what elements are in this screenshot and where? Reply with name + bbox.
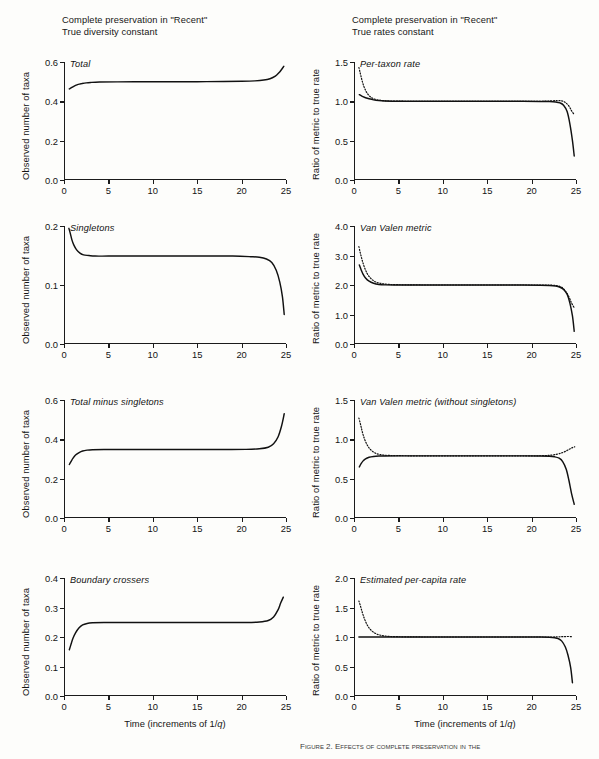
x-tick bbox=[64, 180, 65, 184]
panel-per-taxon-rate: 0.00.51.01.50510152025Per-taxon rateRati… bbox=[354, 62, 576, 180]
y-tick-label: 0.1 bbox=[45, 280, 58, 291]
x-tick bbox=[532, 180, 533, 184]
panel-estimated-per-capita-rate: 0.00.51.01.52.00510152025Estimated per-c… bbox=[354, 578, 576, 696]
curve-layer-estimated-per-capita-rate bbox=[354, 578, 576, 696]
x-tick-label: 0 bbox=[351, 185, 356, 196]
y-tick-label: 0.4 bbox=[45, 573, 58, 584]
y-tick-label: 0.0 bbox=[45, 513, 58, 524]
y-tick-label: 4.0 bbox=[335, 221, 348, 232]
x-tick-label: 10 bbox=[438, 523, 448, 534]
panel-total-minus-singletons: 0.00.20.40.60510152025Total minus single… bbox=[64, 400, 286, 518]
x-tick-label: 0 bbox=[351, 349, 356, 360]
series-solid bbox=[69, 597, 283, 650]
x-tick-label: 20 bbox=[526, 523, 536, 534]
series-dotted bbox=[359, 68, 574, 115]
x-tick bbox=[398, 344, 399, 348]
x-tick-label: 20 bbox=[526, 185, 536, 196]
x-tick-label: 25 bbox=[571, 701, 581, 712]
x-tick bbox=[64, 696, 65, 700]
y-tick-label: 0.5 bbox=[335, 661, 348, 672]
x-tick-label: 0 bbox=[61, 523, 66, 534]
panel-van-valen-metric: 0.01.02.03.04.00510152025Van Valen metri… bbox=[354, 226, 576, 344]
y-tick-label: 1.5 bbox=[335, 395, 348, 406]
curve-layer-per-taxon-rate bbox=[354, 62, 576, 180]
y-tick-label: 0.4 bbox=[45, 96, 58, 107]
x-tick bbox=[532, 344, 533, 348]
curve-layer-boundary-crossers bbox=[64, 578, 286, 696]
y-tick-label: 2.0 bbox=[335, 573, 348, 584]
plot-area-estimated-per-capita-rate: 0.00.51.01.52.00510152025Estimated per-c… bbox=[354, 578, 576, 696]
x-tick-label: 20 bbox=[236, 701, 246, 712]
series-solid bbox=[69, 414, 284, 465]
x-tick-label: 0 bbox=[351, 701, 356, 712]
curve-layer-van-valen-metric bbox=[354, 226, 576, 344]
x-tick bbox=[64, 344, 65, 348]
x-tick-label: 25 bbox=[281, 185, 291, 196]
x-tick bbox=[242, 344, 243, 348]
x-tick-label: 20 bbox=[236, 523, 246, 534]
y-axis-label: Ratio of metric to true rate bbox=[310, 407, 321, 518]
plot-area-total-minus-singletons: 0.00.20.40.60510152025Total minus single… bbox=[64, 400, 286, 518]
x-tick-label: 15 bbox=[482, 523, 492, 534]
y-axis-label: Observed number of taxa bbox=[20, 410, 31, 518]
plot-area-van-valen-metric: 0.01.02.03.04.00510152025Van Valen metri… bbox=[354, 226, 576, 344]
series-solid bbox=[359, 95, 574, 156]
x-tick bbox=[197, 518, 198, 522]
y-tick-label: 0.0 bbox=[335, 513, 348, 524]
x-tick-label: 20 bbox=[526, 701, 536, 712]
curve-layer-total-minus-singletons bbox=[64, 400, 286, 518]
plot-area-boundary-crossers: 0.00.10.20.30.40510152025Boundary crosse… bbox=[64, 578, 286, 696]
y-tick-label: 0.2 bbox=[45, 632, 58, 643]
y-axis-label: Ratio of metric to true rate bbox=[310, 69, 321, 180]
x-tick-label: 5 bbox=[396, 349, 401, 360]
x-tick bbox=[153, 180, 154, 184]
curve-layer-van-valen-without-singletons bbox=[354, 400, 576, 518]
x-tick bbox=[443, 180, 444, 184]
x-axis-label-suffix: ) bbox=[513, 718, 516, 729]
x-axis-label-prefix: Time (increments of 1/ bbox=[414, 718, 507, 729]
x-tick bbox=[108, 518, 109, 522]
y-tick-label: 0.5 bbox=[335, 135, 348, 146]
x-tick-label: 25 bbox=[281, 701, 291, 712]
y-tick-label: 0.0 bbox=[335, 339, 348, 350]
x-tick bbox=[153, 696, 154, 700]
x-axis-label: Time (increments of 1/q) bbox=[124, 718, 225, 729]
y-tick-label: 0.6 bbox=[45, 395, 58, 406]
x-tick bbox=[532, 696, 533, 700]
x-tick bbox=[532, 518, 533, 522]
figure-caption: Figure 2. Effects of complete preservati… bbox=[300, 742, 599, 751]
x-tick-label: 20 bbox=[526, 349, 536, 360]
x-tick bbox=[153, 344, 154, 348]
y-axis-label: Observed number of taxa bbox=[20, 72, 31, 180]
panel-title-singletons: Singletons bbox=[70, 223, 114, 233]
y-tick-label: 0.0 bbox=[45, 175, 58, 186]
x-tick bbox=[576, 696, 577, 700]
panel-boundary-crossers: 0.00.10.20.30.40510152025Boundary crosse… bbox=[64, 578, 286, 696]
x-tick-label: 25 bbox=[281, 523, 291, 534]
panel-title-boundary-crossers: Boundary crossers bbox=[70, 575, 149, 585]
x-tick-label: 10 bbox=[148, 701, 158, 712]
y-tick-label: 1.5 bbox=[335, 57, 348, 68]
x-tick-label: 10 bbox=[148, 185, 158, 196]
x-tick-label: 5 bbox=[396, 185, 401, 196]
x-tick bbox=[443, 696, 444, 700]
x-tick bbox=[197, 344, 198, 348]
x-tick-label: 0 bbox=[61, 349, 66, 360]
x-tick-label: 5 bbox=[106, 349, 111, 360]
panel-title-van-valen-without-singletons: Van Valen metric (without singletons) bbox=[360, 397, 517, 407]
x-tick-label: 15 bbox=[192, 349, 202, 360]
y-tick-label: 0.6 bbox=[45, 57, 58, 68]
y-tick-label: 0.4 bbox=[45, 434, 58, 445]
y-tick-label: 1.5 bbox=[335, 602, 348, 613]
x-tick bbox=[398, 518, 399, 522]
x-tick-label: 10 bbox=[438, 349, 448, 360]
series-solid bbox=[359, 265, 574, 331]
series-solid bbox=[359, 637, 573, 683]
x-tick bbox=[108, 344, 109, 348]
x-tick bbox=[443, 344, 444, 348]
panel-title-van-valen-metric: Van Valen metric bbox=[360, 223, 432, 233]
y-tick-label: 0.2 bbox=[45, 221, 58, 232]
plot-area-van-valen-without-singletons: 0.00.51.01.50510152025Van Valen metric (… bbox=[354, 400, 576, 518]
panel-total: 0.00.20.40.60510152025TotalObserved numb… bbox=[64, 62, 286, 180]
x-tick-label: 0 bbox=[61, 701, 66, 712]
